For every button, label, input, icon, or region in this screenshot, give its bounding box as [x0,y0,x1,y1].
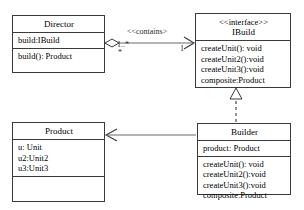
operation-item: createUnit(): void [201,43,286,54]
contains-relationship-label: <<contains> [127,27,167,36]
class-title-ibuild: <<interface>> IBuild [196,14,290,40]
class-operations-director: build(): Product [13,48,104,64]
open-arrowhead-icon [184,37,194,49]
class-title-builder: Builder [198,124,290,140]
class-attributes-director: build:IBuild [13,32,104,48]
attribute-item: product: Product [203,143,286,154]
class-name-builder: Builder [203,127,286,137]
class-box-product[interactable]: Product u: Unit u2:Unit2 u3:Unit3 [12,122,105,202]
contains-source-multiplicity-secondary: * [118,48,122,57]
hollow-triangle-arrowhead-icon [230,88,242,99]
attribute-item: u: Unit [18,142,100,153]
class-name-product: Product [18,126,100,136]
operation-item: build(): Product [18,51,100,62]
class-name-director: Director [18,19,100,29]
class-box-ibuild[interactable]: <<interface>> IBuild createUnit(): void … [195,13,291,88]
class-attributes-product: u: Unit u2:Unit2 u3:Unit3 [13,139,104,176]
class-box-builder[interactable]: Builder product: Product createUnit(): v… [197,123,291,195]
creates-arrowhead-icon [106,129,117,141]
operation-item: createUnit3():void [203,180,286,191]
operation-item: createUnit(): void [203,159,286,170]
operation-item: composite:Product [203,190,286,201]
class-box-director[interactable]: Director build:IBuild build(): Product [12,15,105,73]
operation-item: composite:Product [201,75,286,86]
class-operations-product [13,176,104,192]
class-name-ibuild: IBuild [201,27,286,37]
class-stereotype-ibuild: <<interface>> [201,17,286,27]
class-operations-builder: createUnit(): void createUnit2():void cr… [198,156,290,203]
class-operations-ibuild: createUnit(): void createUnit2():void cr… [196,40,290,87]
attribute-item: u2:Unit2 [18,153,100,164]
edge-realization [230,88,242,122]
edge-creates [106,129,196,141]
class-title-product: Product [13,123,104,139]
uml-diagram-canvas: <<contains> 1..* * 1 Director build:IBui… [0,0,304,210]
attribute-item: u3:Unit3 [18,163,100,174]
operation-item: createUnit2():void [203,169,286,180]
class-attributes-builder: product: Product [198,140,290,156]
operation-item: createUnit3():void [201,64,286,75]
operation-item: createUnit2():void [201,54,286,65]
attribute-item: build:IBuild [18,35,100,46]
class-title-director: Director [13,16,104,32]
contains-target-multiplicity: 1 [180,44,184,53]
